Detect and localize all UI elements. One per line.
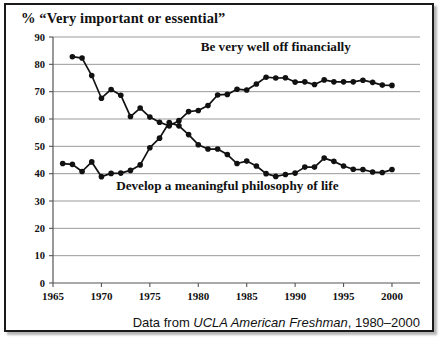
chart-figure: % “Very important or essential” 01020304…	[0, 0, 442, 341]
data-point-marker	[128, 168, 134, 174]
y-axis-tick-label: 40	[35, 168, 46, 179]
data-point-marker	[321, 77, 327, 83]
data-point-marker	[273, 75, 279, 81]
data-point-marker	[176, 118, 182, 124]
data-point-marker	[370, 80, 376, 86]
data-point-marker	[70, 162, 76, 168]
data-point-marker	[157, 119, 163, 125]
x-axis-ticks-group: 19651970197519801985199019952000	[42, 283, 403, 302]
data-point-marker	[225, 152, 231, 158]
x-axis-tick-label: 1970	[90, 290, 113, 302]
data-point-marker	[292, 79, 298, 85]
data-point-marker	[89, 73, 95, 79]
source-caption: Data from UCLA American Freshman, 1980–2…	[133, 315, 420, 330]
x-axis-tick-label: 1990	[284, 290, 307, 302]
data-point-marker	[350, 79, 356, 85]
data-point-marker	[186, 109, 192, 115]
data-point-marker	[302, 79, 308, 85]
y-axis-tick-label: 10	[35, 250, 46, 261]
data-point-marker	[147, 145, 153, 151]
x-axis-tick-label: 1995	[333, 290, 356, 302]
data-point-marker	[137, 105, 143, 111]
data-point-marker	[341, 163, 347, 169]
data-point-marker	[283, 75, 289, 81]
data-point-marker	[312, 82, 318, 88]
plot-area: 0102030405060708090 19651970197519801985…	[0, 0, 442, 341]
caption-source: UCLA American Freshman	[193, 315, 347, 330]
x-axis-tick-label: 1985	[236, 290, 259, 302]
data-point-marker	[234, 161, 240, 167]
data-point-marker	[118, 92, 124, 98]
data-point-marker	[108, 87, 114, 93]
data-point-marker	[312, 164, 318, 170]
data-point-marker	[195, 108, 201, 114]
data-point-marker	[379, 82, 385, 88]
data-point-marker	[137, 162, 143, 168]
data-point-marker	[166, 120, 172, 126]
data-point-marker	[128, 114, 134, 120]
data-point-marker	[99, 174, 105, 180]
y-axis-tick-label: 30	[35, 196, 46, 207]
y-axis-tick-label: 0	[40, 278, 45, 289]
data-point-marker	[195, 142, 201, 148]
data-point-marker	[244, 87, 250, 93]
y-axis-tick-label: 70	[35, 86, 46, 97]
data-point-marker	[379, 170, 385, 176]
data-point-marker	[79, 55, 85, 61]
y-axis-tick-label: 20	[35, 223, 46, 234]
data-point-marker	[157, 135, 163, 141]
y-axis-tick-label: 90	[35, 32, 46, 43]
caption-prefix: Data from	[133, 315, 194, 330]
data-point-marker	[360, 77, 366, 83]
data-point-marker	[389, 167, 395, 173]
x-axis-tick-label: 2000	[381, 290, 404, 302]
data-point-marker	[205, 146, 211, 152]
data-point-marker	[244, 158, 250, 164]
gridlines-group	[53, 37, 420, 256]
data-point-marker	[89, 159, 95, 165]
line-chart-svg: 0102030405060708090 19651970197519801985…	[0, 0, 442, 341]
x-axis-tick-label: 1980	[187, 290, 210, 302]
data-point-marker	[360, 167, 366, 173]
series-markers-group	[60, 54, 395, 180]
series-lines-group	[63, 57, 392, 177]
data-point-marker	[263, 171, 269, 177]
data-point-marker	[331, 159, 337, 165]
y-axis-ticks-group: 0102030405060708090	[35, 32, 54, 289]
data-point-marker	[254, 163, 260, 169]
data-point-marker	[176, 123, 182, 129]
data-point-marker	[321, 155, 327, 161]
data-point-marker	[341, 79, 347, 85]
data-point-marker	[292, 170, 298, 176]
data-point-marker	[389, 83, 395, 89]
data-point-marker	[108, 171, 114, 177]
y-axis-tick-label: 60	[35, 114, 46, 125]
data-point-marker	[215, 92, 221, 98]
data-point-marker	[263, 74, 269, 80]
data-point-marker	[254, 81, 260, 87]
y-axis-tick-label: 50	[35, 141, 46, 152]
data-point-marker	[215, 146, 221, 152]
data-point-marker	[331, 79, 337, 85]
data-point-marker	[225, 92, 231, 98]
data-point-marker	[234, 86, 240, 92]
data-point-marker	[60, 161, 66, 167]
series-label-2: Develop a meaningful philosophy of life	[116, 178, 339, 193]
data-point-marker	[205, 103, 211, 109]
data-point-marker	[302, 164, 308, 170]
data-point-marker	[70, 54, 76, 60]
data-point-marker	[350, 166, 356, 172]
data-point-marker	[79, 169, 85, 175]
y-axis-tick-label: 80	[35, 59, 46, 70]
data-point-marker	[118, 170, 124, 176]
data-point-marker	[370, 169, 376, 175]
series-label-1: Be very well off financially	[201, 39, 352, 54]
data-point-marker	[186, 132, 192, 138]
x-axis-tick-label: 1975	[139, 290, 162, 302]
caption-suffix: , 1980–2000	[348, 315, 420, 330]
data-point-marker	[147, 114, 153, 120]
x-axis-tick-label: 1965	[42, 290, 65, 302]
data-point-marker	[99, 95, 105, 101]
data-point-marker	[283, 172, 289, 178]
